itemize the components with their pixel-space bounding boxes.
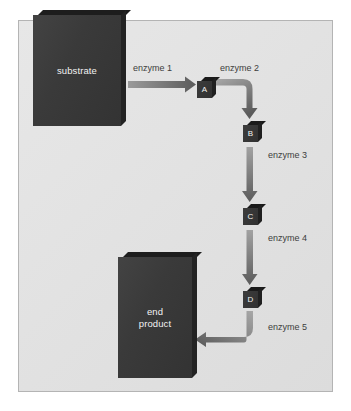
end-product-label-line1: end [147, 306, 163, 317]
enzyme-2-label: enzyme 2 [220, 63, 259, 74]
intermediate-box-d-front-face: D [243, 291, 258, 308]
intermediate-box-a-front-face: A [197, 81, 212, 98]
intermediate-box-b: B [243, 121, 262, 142]
intermediate-a-label: A [202, 86, 207, 94]
enzyme-1-label: enzyme 1 [133, 63, 172, 74]
enzyme-3-label: enzyme 3 [268, 150, 307, 161]
intermediate-box-c-front-face: C [243, 208, 258, 225]
enzyme-5-label: enzyme 5 [268, 322, 307, 333]
intermediate-box-b-side-face [258, 121, 262, 142]
substrate-box: substrate [33, 10, 126, 126]
intermediate-box-d-side-face [258, 287, 262, 308]
substrate-label: substrate [57, 65, 97, 77]
end-product-label-line2: product [139, 318, 171, 329]
intermediate-box-c: C [243, 204, 262, 225]
intermediate-box-d: D [243, 287, 262, 308]
substrate-box-front-face: substrate [33, 15, 121, 126]
substrate-box-side-face [121, 10, 126, 126]
intermediate-b-label: B [248, 130, 253, 138]
intermediate-box-b-front-face: B [243, 125, 258, 142]
end-product-box-side-face [192, 252, 197, 378]
intermediate-box-a: A [197, 77, 216, 98]
end-product-box: end product [118, 252, 197, 378]
intermediate-d-label: D [248, 296, 254, 304]
end-product-box-front-face: end product [118, 257, 192, 378]
enzyme-4-label: enzyme 4 [268, 233, 307, 244]
intermediate-c-label: C [248, 213, 254, 221]
intermediate-box-c-side-face [258, 204, 262, 225]
end-product-label: end product [139, 306, 171, 330]
intermediate-box-a-side-face [212, 77, 216, 98]
diagram-canvas: substrate end product A B C [0, 0, 351, 411]
